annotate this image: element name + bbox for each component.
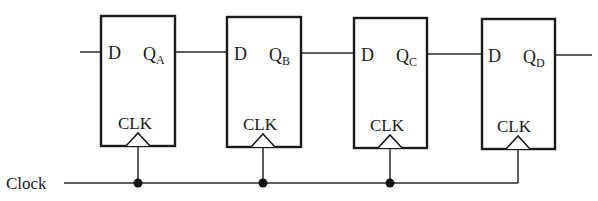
clk-label: CLK — [243, 115, 278, 134]
junction-dot-b — [259, 179, 268, 188]
junction-dot-c — [386, 179, 395, 188]
flip-flop-a: D QA CLK — [101, 16, 175, 146]
d-input-label: D — [108, 43, 121, 63]
d-input-label: D — [234, 44, 247, 64]
clk-label: CLK — [370, 116, 405, 135]
junction-dot-a — [134, 179, 143, 188]
flip-flop-b: D QB CLK — [227, 17, 301, 147]
d-input-label: D — [361, 45, 374, 65]
flip-flop-d: D QD CLK — [482, 19, 555, 149]
d-input-label: D — [488, 46, 501, 66]
shift-register-diagram: Clock D QA CLK D QB CLK D QC CLK D QD CL… — [0, 0, 598, 201]
clock-label: Clock — [6, 174, 47, 193]
clk-label: CLK — [118, 114, 153, 133]
flip-flop-c: D QC CLK — [354, 18, 427, 148]
clk-label: CLK — [497, 117, 532, 136]
